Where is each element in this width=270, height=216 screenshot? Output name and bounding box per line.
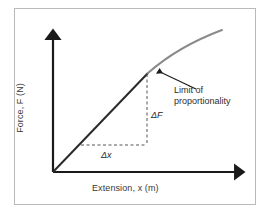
x-axis-label: Extension, x (m) <box>92 183 159 193</box>
force-extension-figure: Force, F (N) Extension, x (m) ΔF Δx Limi… <box>0 0 270 216</box>
delta-x-label: Δx <box>101 150 112 160</box>
delta-f-label: ΔF <box>151 110 163 120</box>
limit-annotation-line-1: Limit of <box>174 85 254 96</box>
curved-region-line <box>148 30 222 73</box>
y-axis-label: Force, F (N) <box>15 68 25 148</box>
limit-of-proportionality-annotation: Limit of proportionality <box>174 85 254 107</box>
limit-annotation-line-2: proportionality <box>174 96 254 107</box>
